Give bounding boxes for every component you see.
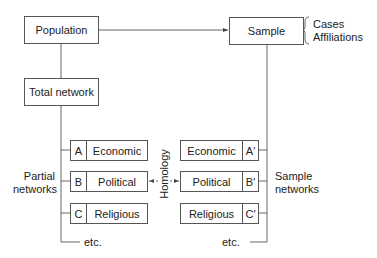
partial-network-b: BPolitical xyxy=(70,171,148,192)
affiliations-label: Affiliations xyxy=(313,31,363,44)
sample-network-b: PoliticalB′ xyxy=(180,171,259,192)
partial-network-a: AEconomic xyxy=(70,140,148,161)
partial-key: B xyxy=(71,172,87,191)
total-network-box: Total network xyxy=(24,78,99,106)
cases-label: Cases xyxy=(313,18,363,31)
sample-network-c: ReligiousC′ xyxy=(180,203,259,224)
diagram-canvas: Population Sample Cases Affiliations Tot… xyxy=(0,0,377,258)
sample-label: Sample xyxy=(248,25,285,37)
sample-label-item: Economic xyxy=(181,141,242,160)
homology-label: Homology xyxy=(158,149,170,199)
sample-key: C′ xyxy=(242,204,258,223)
sample-annotation: Cases Affiliations xyxy=(313,18,363,44)
sample-etc: etc. xyxy=(222,236,240,249)
partial-label: Economic xyxy=(87,141,147,160)
partial-etc: etc. xyxy=(84,236,102,249)
sample-box: Sample xyxy=(229,17,304,45)
sample-networks-line1: Sample xyxy=(275,170,319,183)
sample-label-item: Political xyxy=(181,172,242,191)
sample-key: A′ xyxy=(242,141,258,160)
partial-label-line1: Partial xyxy=(13,170,55,183)
sample-key: B′ xyxy=(242,172,258,191)
partial-key: C xyxy=(71,204,87,223)
partial-networks-label: Partial networks xyxy=(13,170,55,196)
sample-networks-label: Sample networks xyxy=(275,170,319,196)
partial-key: A xyxy=(71,141,87,160)
sample-label-item: Religious xyxy=(181,204,242,223)
partial-label: Political xyxy=(87,172,147,191)
sample-networks-line2: networks xyxy=(275,183,319,196)
total-network-label: Total network xyxy=(29,86,94,98)
sample-network-a: EconomicA′ xyxy=(180,140,259,161)
partial-label: Religious xyxy=(87,204,147,223)
partial-network-c: CReligious xyxy=(70,203,148,224)
population-box: Population xyxy=(24,16,99,44)
partial-label-line2: networks xyxy=(13,183,55,196)
population-label: Population xyxy=(36,24,88,36)
